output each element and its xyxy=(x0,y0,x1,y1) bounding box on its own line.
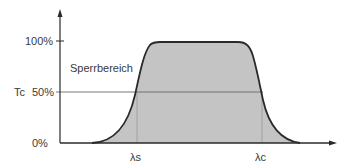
tick-label-50: 50% xyxy=(32,87,54,98)
lambda-c-label: λc xyxy=(255,152,266,163)
transmission-area xyxy=(92,42,300,143)
transmission-diagram xyxy=(0,0,350,168)
threshold-label: Tc xyxy=(14,87,25,98)
tick-label-100: 100% xyxy=(25,36,53,47)
region-label: Sperrbereich xyxy=(70,63,133,74)
x-axis-arrow-icon xyxy=(329,141,337,146)
tick-label-0: 0% xyxy=(32,138,48,149)
lambda-s-label: λs xyxy=(130,152,141,163)
y-axis-arrow-icon xyxy=(58,9,63,17)
